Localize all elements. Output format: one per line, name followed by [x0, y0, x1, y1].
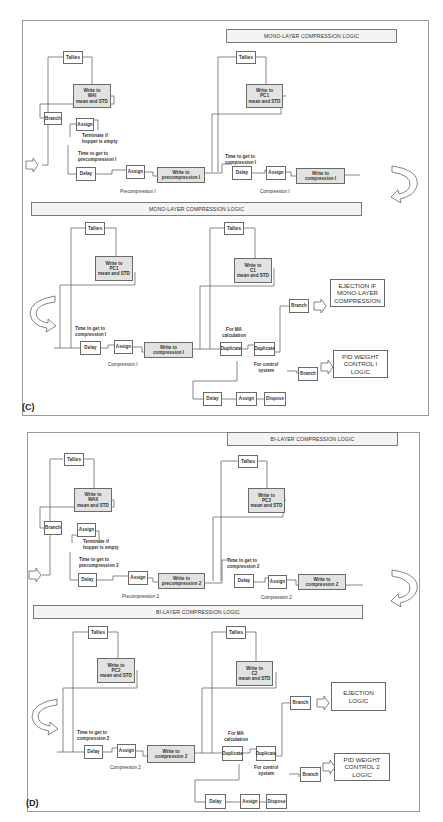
tallies-block[interactable]: Tallies [85, 222, 105, 235]
terminate-label: Terminate if hopper is empty [83, 539, 118, 550]
branch-block[interactable]: Branch [300, 767, 321, 782]
panel-d-mid-title: BI-LAYER COMPRESSION LOGIC [33, 605, 363, 619]
panel-c-top-title: MONO-LAYER COMPRESSION LOGIC [226, 29, 397, 43]
duplicate-block[interactable]: Duplicate [222, 746, 243, 761]
assign-block[interactable]: Assign [268, 575, 287, 589]
pid-weight-control-2-box[interactable]: PID WEIGHT CONTROL 2 LOGIC [334, 753, 390, 781]
branch-block[interactable]: Branch [44, 521, 62, 535]
assign-block[interactable]: Assign [114, 340, 133, 354]
compression-caption: Compression 2 [110, 765, 141, 771]
time-compression-label: Time to get to compression I [75, 326, 106, 337]
time-compression-label: Time to get to compression I [225, 154, 256, 165]
tallies-block[interactable]: Tallies [236, 51, 256, 64]
dispose-block[interactable]: Dispose [266, 794, 287, 809]
assign-block[interactable]: Assign [76, 118, 94, 131]
delay-block[interactable]: Delay [232, 166, 252, 180]
branch-block[interactable]: Branch [290, 696, 311, 710]
dispose-block[interactable]: Dispose [264, 392, 286, 406]
assign-block[interactable]: Assign [240, 794, 260, 809]
tallies-block[interactable]: Tallies [63, 51, 83, 64]
tallies-block[interactable]: Tallies [238, 455, 258, 468]
write-pc2-block[interactable]: Write to PC2 mean and STD [248, 488, 285, 513]
panel-d-top-title: BI-LAYER COMPRESSION LOGIC [227, 432, 398, 446]
time-precompression-label: Time to get to precompression I [78, 151, 116, 162]
write-c-block[interactable]: Write to C1 mean and STD [234, 258, 272, 283]
duplicate-block[interactable]: Duplicate [220, 342, 242, 356]
control-system-label: For control system [254, 362, 278, 373]
write-compression-block[interactable]: Write to compression I [296, 168, 345, 184]
assign-block[interactable]: Assign [126, 165, 145, 179]
write-compression-block[interactable]: Write to compression 2 [147, 745, 195, 763]
write-compression-block[interactable]: Write to compression I [144, 342, 193, 358]
write-pc2-block[interactable]: Write to PC2 mean and STD [97, 658, 135, 683]
terminate-label: Terminate if hopper is empty [82, 133, 117, 144]
branch-block[interactable]: Branch [44, 112, 62, 125]
duplicate-block[interactable]: Duplicate [256, 746, 276, 761]
ejection-mono-layer-box[interactable]: EJECTION IF MONO-LAYER COMPRESSION [330, 279, 385, 307]
ma-calculation-label: For MA calculation [222, 327, 246, 338]
ejection-logic-box[interactable]: EJECTION LOGIC [331, 682, 386, 711]
pid-weight-control-1-box[interactable]: PID WEIGHT CONTROL I LOGIC [333, 350, 388, 378]
delay-block[interactable]: Delay [78, 573, 97, 587]
tallies-block[interactable]: Tallies [88, 626, 108, 639]
branch-block[interactable]: Branch [289, 299, 309, 313]
write-pc-block[interactable]: Write to PC1 mean and STD [95, 256, 133, 281]
compression-caption: Compression I [108, 362, 138, 368]
assign-block[interactable]: Assign [128, 571, 148, 585]
time-compression-label: Time to get to compression 2 [227, 558, 259, 569]
delay-block[interactable]: Delay [234, 574, 254, 588]
time-compression-label: Time to get to compression 2 [77, 730, 109, 741]
assign-block[interactable]: Assign [117, 744, 136, 758]
duplicate-block[interactable]: Duplicate [254, 342, 275, 356]
delay-block[interactable]: Delay [205, 794, 226, 809]
write-wai-block[interactable]: Write to WAI mean and STD [73, 84, 111, 108]
write-waii-block[interactable]: Write to WAII mean and STD [74, 488, 112, 512]
assign-block[interactable]: Assign [236, 392, 257, 406]
delay-block[interactable]: Delay [84, 745, 103, 759]
assign-block[interactable]: Assign [77, 523, 96, 537]
assign-block[interactable]: Assign [266, 166, 286, 180]
delay-block[interactable]: Delay [76, 167, 96, 181]
panel-d-tag: (D) [26, 798, 39, 808]
compression-caption: Compression 2 [261, 595, 292, 601]
precompression-caption: Precompression I [120, 189, 156, 195]
control-system-label: For control system [254, 765, 278, 776]
write-precompression-block[interactable]: Write to precompression 2 [158, 573, 205, 589]
tallies-block[interactable]: Tallies [64, 453, 84, 466]
ma-calculation-label: For MA calculation [224, 731, 248, 742]
write-c2-block[interactable]: Write to C2 mean and STD [236, 661, 273, 686]
write-pc-block[interactable]: Write to PC1 mean and STD [246, 84, 283, 108]
compression-caption: Compression I [260, 189, 290, 195]
time-precompression-label: Time to get to precompression 2 [79, 557, 119, 568]
precompression-caption: Precompression 2 [122, 594, 159, 600]
delay-block[interactable]: Delay [203, 392, 222, 406]
delay-block[interactable]: Delay [80, 341, 101, 355]
branch-block[interactable]: Branch [298, 367, 318, 381]
write-compression-block[interactable]: Write to compression 2 [298, 574, 346, 590]
panel-c-mid-title: MONO-LAYER COMPRESSION LOGIC [31, 202, 362, 216]
write-precompression-block[interactable]: Write to precompression I [157, 167, 205, 183]
tallies-block[interactable]: Tallies [224, 222, 244, 235]
tallies-block[interactable]: Tallies [226, 626, 246, 639]
panel-c-tag: (C) [22, 402, 35, 412]
